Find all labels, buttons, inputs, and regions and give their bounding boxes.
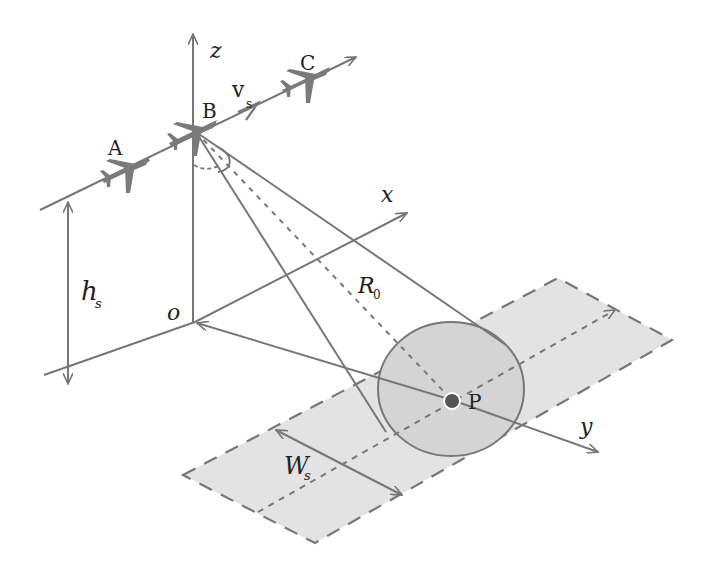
- x-axis: [195, 213, 407, 322]
- aircraft-a-icon: [100, 157, 150, 193]
- label-aircraft-a: A: [107, 136, 123, 160]
- look-angle-arc: [194, 165, 218, 169]
- slant-range-line: [196, 132, 450, 398]
- label-y-axis: y: [579, 414, 593, 439]
- range-subscript: 0: [373, 288, 381, 302]
- label-aircraft-b: B: [202, 99, 217, 123]
- range-symbol: R: [357, 273, 375, 298]
- label-swath: W s: [284, 452, 311, 483]
- label-height: h s: [81, 276, 102, 311]
- velocity-subscript: s: [246, 97, 252, 111]
- sar-geometry-diagram: A B C z x y o v s h s R 0 W s P: [0, 0, 704, 568]
- velocity-symbol: v: [231, 77, 245, 102]
- swath-subscript: s: [304, 468, 311, 483]
- beam-edge-far: [196, 132, 506, 345]
- height-subscript: s: [95, 296, 102, 311]
- label-target-point: P: [468, 390, 481, 414]
- label-velocity: v s: [231, 77, 252, 111]
- label-x-axis: x: [381, 182, 394, 207]
- ground-line: [44, 322, 195, 375]
- label-aircraft-c: C: [300, 51, 315, 75]
- label-range: R 0: [357, 273, 381, 302]
- target-point: [444, 393, 460, 409]
- label-origin: o: [167, 300, 180, 325]
- label-z-axis: z: [209, 38, 222, 63]
